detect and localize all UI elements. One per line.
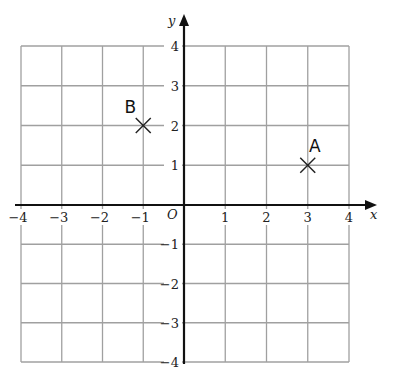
y-axis-label: y	[167, 13, 176, 28]
origin-label: O	[167, 207, 178, 222]
point-a: A	[300, 136, 321, 173]
x-tick-label: 1	[221, 210, 229, 225]
x-tick-label: −2	[90, 210, 109, 225]
x-tick-label: −3	[49, 210, 68, 225]
coordinate-grid: −4−3−2−11234 4321−1−2−3−4 x y O AB	[0, 0, 393, 382]
y-tick-label: 1	[171, 158, 179, 173]
y-axis-arrow-icon	[179, 14, 189, 26]
y-tick-label: −1	[160, 237, 179, 252]
x-axis-label: x	[370, 207, 378, 222]
x-tick-label: −4	[8, 210, 27, 225]
y-tick-label: 2	[171, 119, 179, 134]
y-tick-label: −2	[160, 277, 179, 292]
y-tick-label: 4	[171, 39, 179, 54]
x-tick-label: 4	[345, 210, 353, 225]
y-tick-label: 3	[171, 79, 179, 94]
y-tick-label: −4	[160, 355, 179, 370]
plotted-points: AB	[124, 97, 321, 173]
x-tick-label: −1	[131, 210, 150, 225]
axes	[15, 14, 377, 364]
point-label: B	[124, 97, 136, 117]
x-tick-label: 3	[304, 210, 312, 225]
point-b: B	[124, 97, 150, 134]
x-tick-label: 2	[262, 210, 270, 225]
y-tick-label: −3	[160, 316, 179, 331]
point-label: A	[309, 136, 321, 156]
